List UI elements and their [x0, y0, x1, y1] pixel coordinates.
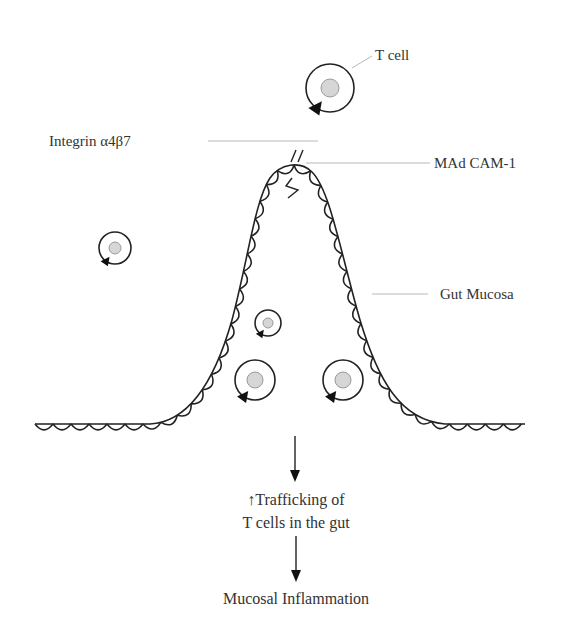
flow-arrow-1-head — [290, 470, 300, 482]
epithelial-cell — [485, 424, 503, 430]
epithelial-cell — [71, 424, 89, 430]
trafficking-line-1: ↑Trafficking of — [247, 491, 345, 509]
mucosal-inflammation-label: Mucosal Inflammation — [223, 590, 369, 607]
integrin-mark-1 — [291, 150, 296, 162]
madcam-label: MAd CAM-1 — [434, 155, 516, 171]
flow-arrow-2-head — [291, 570, 301, 582]
epithelial-cell — [89, 424, 107, 430]
t-cell-bottom-left — [235, 360, 275, 403]
integrin-label: Integrin α4β7 — [49, 133, 131, 149]
epithelial-cell — [35, 424, 53, 430]
gut-homing-diagram: T cell Integrin α4β7 MAd CAM-1 Gut Mucos… — [0, 0, 587, 641]
adhesion-zigzag — [286, 178, 298, 198]
epithelial-cell — [503, 424, 521, 430]
epithelial-cell — [467, 424, 485, 430]
integrin-mark-2 — [298, 150, 303, 162]
gut-mucosa-label: Gut Mucosa — [440, 286, 514, 302]
cell-nucleus — [263, 318, 273, 328]
epithelial-cell — [53, 424, 71, 430]
epithelial-cell — [125, 424, 143, 430]
cell-nucleus — [109, 242, 121, 254]
cell-nucleus — [335, 372, 351, 388]
trafficking-line-2: T cells in the gut — [242, 514, 350, 532]
cell-nucleus — [247, 372, 263, 388]
t-cell-small-center — [255, 310, 281, 338]
t-cell-label: T cell — [375, 47, 409, 63]
epithelial-cell — [107, 424, 125, 430]
outcome-flow: ↑Trafficking of T cells in the gut Mucos… — [223, 436, 369, 607]
t-cell-bottom-right — [323, 360, 363, 403]
epithelial-cell — [449, 424, 467, 430]
t-cell-leader — [352, 56, 372, 68]
cell-nucleus — [321, 79, 339, 97]
t-cells — [99, 64, 363, 403]
t-cell-left — [99, 232, 131, 266]
t-cell-top — [306, 64, 354, 115]
